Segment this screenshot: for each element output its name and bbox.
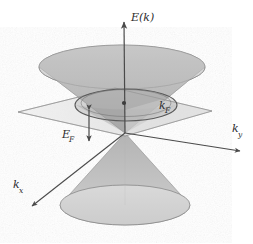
energy-axis-label: E(k): [130, 11, 154, 24]
dirac-cone-figure: E(k) k y k x E F k F: [0, 0, 253, 244]
ky-axis-sublabel: y: [237, 130, 243, 139]
fermi-energy-sublabel: F: [68, 135, 75, 144]
fermi-circle-center-dot: [122, 101, 126, 105]
fermi-momentum-sublabel: F: [164, 106, 171, 115]
